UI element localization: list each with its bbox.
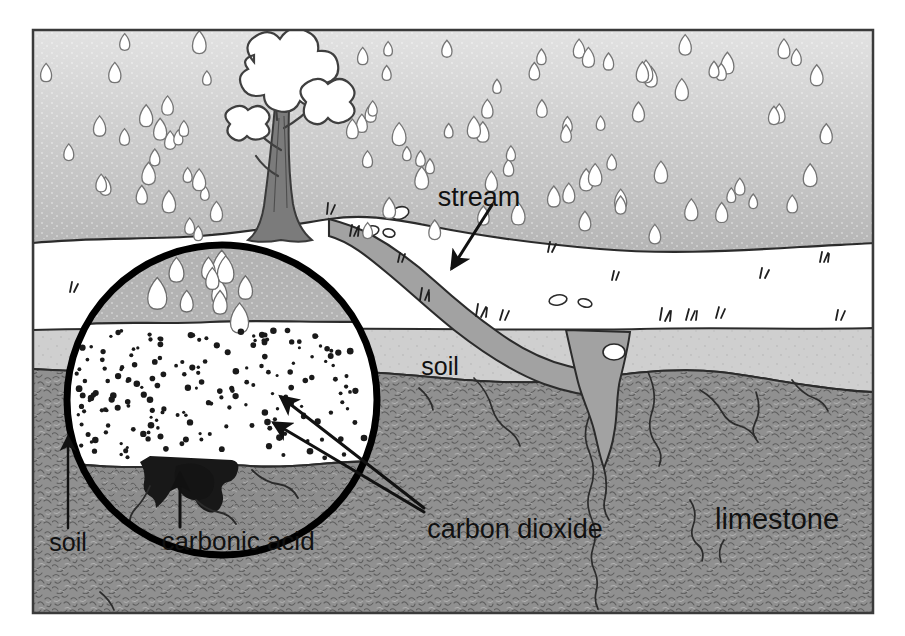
co2-particle: [88, 399, 91, 402]
co2-particle: [80, 392, 86, 398]
co2-particle: [344, 374, 348, 378]
co2-particle: [126, 404, 130, 408]
co2-particle: [270, 327, 277, 334]
co2-particle: [276, 407, 279, 410]
co2-particle: [150, 376, 156, 382]
co2-particle: [100, 349, 105, 354]
co2-particle: [310, 355, 314, 359]
co2-particle: [300, 405, 303, 408]
label-soil-inset: soil: [49, 528, 87, 556]
co2-particle: [104, 430, 108, 434]
co2-particle: [199, 438, 203, 442]
diagram-canvas: stream soil limestone carbon dioxide car…: [0, 0, 905, 636]
co2-particle: [155, 383, 161, 389]
co2-particle: [183, 436, 189, 442]
co2-particle: [100, 357, 105, 362]
co2-particle: [79, 404, 84, 409]
co2-particle: [77, 367, 81, 371]
co2-particle: [315, 335, 319, 339]
co2-particle: [150, 416, 153, 419]
co2-particle: [287, 369, 293, 375]
co2-particle: [182, 372, 187, 377]
co2-particle: [309, 375, 314, 380]
co2-particle: [283, 432, 287, 436]
co2-particle: [266, 370, 271, 375]
co2-particle: [174, 364, 178, 368]
co2-particle: [320, 438, 324, 442]
co2-particle: [307, 448, 314, 455]
co2-particle: [335, 349, 341, 355]
co2-particle: [292, 362, 295, 365]
co2-particle: [132, 347, 136, 351]
co2-particle: [352, 420, 357, 425]
co2-particle: [136, 346, 139, 349]
co2-particle: [90, 440, 93, 443]
co2-particle: [89, 345, 93, 349]
co2-particle: [158, 341, 164, 347]
co2-particle: [184, 414, 188, 418]
co2-particle: [227, 405, 231, 409]
co2-particle: [322, 455, 327, 460]
co2-particle: [273, 417, 277, 421]
co2-particle: [180, 360, 184, 364]
co2-particle: [253, 339, 256, 342]
co2-particle: [219, 446, 225, 452]
co2-particle: [140, 386, 143, 389]
co2-particle: [125, 379, 129, 383]
co2-particle: [119, 453, 122, 456]
co2-particle: [86, 358, 90, 362]
co2-particle: [208, 432, 212, 436]
co2-particle: [232, 393, 238, 399]
co2-particle: [156, 426, 160, 430]
co2-particle: [204, 336, 208, 340]
co2-particle: [161, 410, 165, 414]
co2-particle: [238, 329, 244, 335]
co2-particle: [79, 443, 83, 447]
co2-particle: [109, 335, 112, 338]
co2-particle: [103, 407, 108, 412]
co2-particle: [82, 409, 86, 413]
label-soil-main: soil: [421, 352, 459, 380]
co2-particle: [250, 423, 255, 428]
co2-particle: [276, 434, 283, 441]
label-stream: stream: [438, 182, 521, 212]
label-carbon-dioxide: carbon dioxide: [427, 514, 603, 544]
co2-particle: [319, 344, 322, 347]
co2-particle: [234, 369, 239, 374]
co2-particle: [188, 332, 194, 338]
co2-particle: [132, 362, 138, 368]
co2-particle: [150, 408, 155, 413]
co2-particle: [203, 359, 208, 364]
co2-particle: [289, 339, 294, 344]
co2-particle: [209, 402, 213, 406]
tree-foliage-right: [300, 79, 354, 124]
co2-particle: [262, 340, 268, 346]
co2-particle: [244, 403, 247, 406]
co2-particle: [119, 368, 123, 372]
co2-particle: [352, 388, 358, 394]
co2-particle: [148, 337, 152, 341]
co2-particle: [324, 346, 330, 352]
co2-particle: [288, 385, 294, 391]
co2-particle: [262, 354, 268, 360]
co2-particle: [333, 377, 338, 382]
label-carbonic-acid: carbonic acid: [161, 526, 314, 556]
co2-particle: [91, 392, 96, 397]
co2-particle: [339, 391, 343, 395]
co2-particle: [348, 390, 352, 394]
co2-particle: [344, 384, 348, 388]
co2-particle: [161, 371, 167, 377]
co2-particle: [155, 419, 158, 422]
co2-particle: [217, 388, 223, 394]
co2-particle: [271, 392, 274, 395]
co2-particle: [303, 378, 309, 384]
co2-particle: [214, 343, 219, 348]
co2-particle: [158, 336, 163, 341]
co2-particle: [185, 385, 191, 391]
tree-foliage-left: [225, 106, 269, 141]
co2-particle: [123, 448, 128, 453]
co2-particle: [259, 364, 263, 368]
co2-particle: [197, 365, 200, 368]
co2-particle: [176, 413, 180, 417]
co2-particle: [329, 349, 333, 353]
